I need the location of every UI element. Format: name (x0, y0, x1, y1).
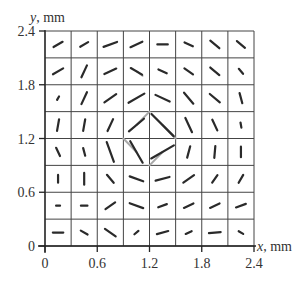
y-tick-labels: 00.61.21.82.4 (18, 24, 36, 254)
orientation-segment (156, 177, 170, 181)
orientation-segment (240, 93, 243, 103)
orientation-segment (209, 232, 221, 233)
y-tick-label: 1.8 (18, 78, 36, 93)
x-tick-label: 0 (42, 256, 49, 271)
orientation-segment (56, 148, 60, 156)
orientation-segment (212, 175, 217, 182)
orientation-segment (239, 175, 244, 183)
orientation-segment (184, 203, 193, 207)
orientation-segment (210, 68, 219, 76)
orientation-segment (129, 94, 145, 103)
orientation-segment (157, 231, 168, 234)
orientation-segment (236, 204, 246, 208)
y-tick-label: 0.6 (18, 185, 36, 200)
orientation-segment (104, 94, 116, 102)
orientation-segment (107, 175, 114, 183)
orientation-segment (237, 41, 245, 48)
orientation-segment (57, 96, 59, 99)
orientation-segment (129, 119, 144, 132)
orientation-segment (81, 92, 87, 104)
x-tick-labels: 00.61.21.82.4 (42, 256, 263, 271)
orientation-segment (105, 229, 116, 236)
orientation-segment (151, 145, 174, 158)
orientation-segment (81, 65, 87, 77)
x-tick-label: 1.2 (141, 256, 159, 271)
orientation-segment (187, 146, 190, 157)
x-axis-title: x, mm (256, 239, 292, 254)
y-tick-label: 2.4 (18, 24, 36, 39)
orientation-segment (210, 203, 219, 207)
orientation-segment (185, 43, 193, 47)
orientation-segment (240, 122, 241, 127)
x-tick-label: 1.8 (193, 256, 211, 271)
y-tick-label: 0 (28, 239, 35, 254)
orientation-segment (158, 69, 166, 73)
orientation-segment (134, 231, 138, 234)
orientation-segment (107, 142, 114, 162)
x-tick-label: 2.4 (245, 256, 263, 271)
orientation-segment (185, 118, 192, 132)
orientation-segment (130, 203, 144, 208)
orientation-segment (239, 231, 244, 234)
orientation-segment (83, 119, 85, 131)
orientation-segment (130, 176, 144, 181)
orientation-segment (108, 119, 114, 131)
orientation-segment (210, 41, 219, 49)
orientation-segment (184, 68, 193, 74)
orientation-segment (105, 202, 115, 209)
grid-lines (45, 31, 254, 246)
y-axis-title: y, mm (28, 10, 65, 25)
orientation-segment (81, 231, 88, 235)
orientation-segment (53, 68, 63, 74)
orientation-segment (155, 95, 169, 102)
vector-field-chart: 00.61.21.82.4 00.61.21.82.4 y, mm x, mm (0, 0, 305, 284)
orientation-segment (186, 231, 192, 234)
orientation-segment (104, 42, 118, 47)
orientation-segment (57, 119, 59, 131)
orientation-segment (212, 120, 217, 131)
orientation-segment (184, 93, 193, 104)
orientation-segment (54, 42, 63, 47)
orientation-segment (83, 148, 85, 156)
y-tick-label: 1.2 (18, 132, 36, 147)
orientation-segment (183, 175, 194, 182)
orientation-segment (104, 69, 116, 75)
orientation-segment (158, 204, 167, 207)
orientation-segment (130, 141, 142, 162)
orientation-segment (151, 114, 173, 136)
orientation-segment (214, 146, 215, 158)
orientation-segment (210, 94, 220, 102)
orientation-segment (131, 68, 142, 75)
orientation-segment (239, 69, 243, 74)
x-tick-label: 0.6 (89, 256, 107, 271)
orientation-segment (131, 42, 143, 48)
orientation-segment (80, 42, 88, 47)
